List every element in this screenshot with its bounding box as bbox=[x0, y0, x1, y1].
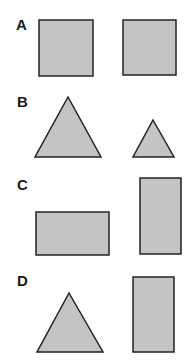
row-a-square-1 bbox=[39, 20, 93, 76]
row-d-triangle-1 bbox=[37, 293, 103, 352]
row-b-triangle-2 bbox=[133, 120, 174, 157]
row-d-rectangle-2 bbox=[133, 277, 174, 352]
row-a-square-2 bbox=[123, 20, 176, 75]
row-b-triangle-1 bbox=[35, 97, 101, 157]
row-c-rectangle-1 bbox=[36, 212, 109, 255]
row-c-rectangle-2 bbox=[140, 178, 181, 254]
shapes-canvas bbox=[0, 0, 193, 363]
